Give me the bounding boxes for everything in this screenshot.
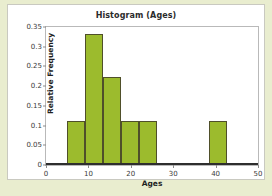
y-tick-label: 0.15 [26,102,42,110]
x-tick-label: 40 [211,170,220,178]
y-tick-label: 0 [38,161,42,169]
x-tick-label: 0 [44,170,48,178]
histogram-figure: Histogram (Ages) Relative Frequency Ages… [7,4,265,180]
x-axis-line [46,163,258,165]
histogram-bar [121,121,139,165]
x-tick-mark [46,165,47,168]
x-tick-mark [173,165,174,168]
y-tick-label: 0.3 [31,43,42,51]
x-tick-mark [258,165,259,168]
x-tick-mark [88,165,89,168]
histogram-bar [139,121,157,165]
x-tick-mark [216,165,217,168]
y-tick-label: 0.35 [26,23,42,31]
plot-area [46,27,258,165]
x-tick-label: 50 [254,170,263,178]
y-tick-label: 0.2 [31,82,42,90]
y-tick-label: 0.05 [26,141,42,149]
plot-frame: Relative Frequency Ages 00.050.10.150.20… [45,26,259,166]
histogram-bar [103,77,121,165]
x-tick-label: 20 [126,170,135,178]
histogram-bar [209,121,227,165]
y-tick-label: 0.25 [26,62,42,70]
histogram-bar [67,121,85,165]
x-tick-label: 10 [84,170,93,178]
x-tick-label: 30 [169,170,178,178]
y-tick-label: 0.1 [31,122,42,130]
x-tick-mark [131,165,132,168]
histogram-bar [85,34,103,165]
x-axis-title: Ages [46,179,258,188]
